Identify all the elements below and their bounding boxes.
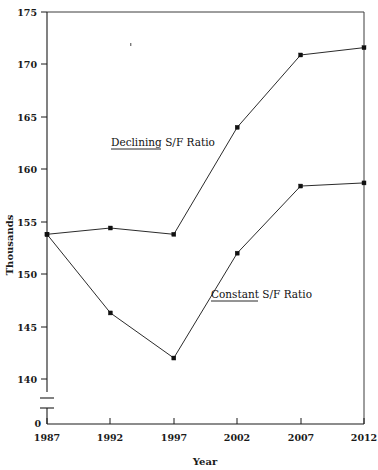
data-point-marker <box>172 232 176 236</box>
y-tick-label-145: 145 <box>17 322 37 333</box>
data-point-marker <box>299 184 303 188</box>
data-point-marker <box>108 226 112 230</box>
annotation-constant: Constant S/F Ratio <box>211 288 312 301</box>
annotation-declining: Declining S/F Ratio <box>111 136 215 149</box>
data-point-marker <box>172 356 176 360</box>
annotation-declining-prefix: Declining <box>111 136 162 148</box>
x-tick-label-2002: 2002 <box>224 432 250 443</box>
chart-container: 175 170 165 160 155 150 145 140 0 1987 1… <box>0 0 378 470</box>
x-tick-label-2007: 2007 <box>288 432 314 443</box>
y-tick-label-160: 160 <box>17 164 37 175</box>
scan-speck <box>130 43 131 46</box>
data-point-marker <box>362 181 366 185</box>
y-tick-label-170: 170 <box>17 59 37 70</box>
y-tick-label-175: 175 <box>17 7 37 18</box>
annotation-constant-rest: S/F Ratio <box>259 288 312 300</box>
data-point-marker <box>235 251 239 255</box>
y-axis-title: Thousands <box>4 214 15 275</box>
annotation-declining-label: Declining S/F Ratio <box>111 136 215 148</box>
annotation-constant-label: Constant S/F Ratio <box>211 288 312 300</box>
x-tick-label-1987: 1987 <box>34 432 60 443</box>
x-tick-label-2012: 2012 <box>351 432 377 443</box>
series-line-constant <box>47 183 364 358</box>
y-tick-label-150: 150 <box>17 269 37 280</box>
y-ticks <box>41 12 47 379</box>
x-tick-label-1997: 1997 <box>161 432 187 443</box>
data-point-marker <box>299 53 303 57</box>
data-point-marker <box>362 46 366 50</box>
data-point-marker <box>45 232 49 236</box>
plot-frame <box>47 12 364 424</box>
series-markers-constant <box>45 181 366 360</box>
data-point-marker <box>235 125 239 129</box>
y-tick-label-165: 165 <box>17 112 37 123</box>
x-tick-label-1992: 1992 <box>97 432 123 443</box>
annotation-declining-rest: S/F Ratio <box>162 136 215 148</box>
line-chart-svg: 175 170 165 160 155 150 145 140 0 1987 1… <box>0 0 378 470</box>
y-axis-zero-label: 0 <box>34 418 41 429</box>
y-tick-label-140: 140 <box>17 374 37 385</box>
y-tick-label-155: 155 <box>17 217 37 228</box>
x-ticks <box>47 418 364 424</box>
annotation-constant-prefix: Constant <box>211 288 260 300</box>
data-point-marker <box>108 311 112 315</box>
x-axis-title: Year <box>192 456 218 467</box>
